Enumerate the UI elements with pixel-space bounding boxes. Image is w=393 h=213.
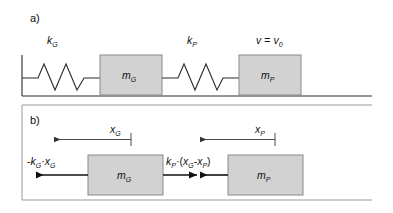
- panel-b-label: b): [30, 114, 40, 126]
- velocity-equals: =: [264, 34, 270, 46]
- xG-subscript: G: [115, 130, 121, 137]
- velocity-symbol: v: [256, 34, 262, 46]
- velocity-initial-subscript: 0: [279, 41, 283, 48]
- physics-spring-mass-figure: a) kG kP: [0, 0, 393, 213]
- mG-symbol-a: m: [122, 69, 131, 81]
- panel-a-label: a): [30, 12, 40, 24]
- mG-subscript-b: G: [126, 176, 132, 183]
- mG-subscript-a: G: [131, 76, 137, 83]
- mP-symbol-b: m: [257, 169, 266, 181]
- figure-background: [1, 1, 393, 213]
- kG-subscript: G: [52, 41, 58, 48]
- mP-subscript-b: P: [266, 176, 271, 183]
- kP-subscript: P: [192, 41, 197, 48]
- mG-symbol-b: m: [117, 169, 126, 181]
- mP-subscript-a: P: [270, 76, 275, 83]
- mP-symbol-a: m: [261, 69, 270, 81]
- xP-subscript: P: [260, 130, 265, 137]
